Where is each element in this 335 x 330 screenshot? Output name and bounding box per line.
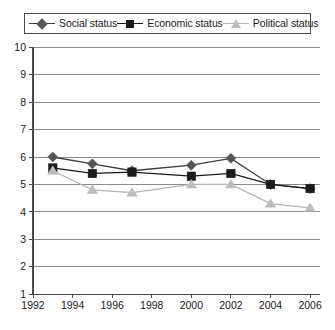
y-axis-label-5: 5 (20, 178, 26, 190)
x-axis-label-2006: 2006 (298, 299, 322, 311)
data-point-political-status-2000 (186, 180, 196, 188)
y-axis-label-7: 7 (20, 123, 26, 135)
y-axis-label-3: 3 (20, 233, 26, 245)
x-axis-label-1992: 1992 (21, 299, 45, 311)
y-axis-label-9: 9 (20, 68, 26, 80)
y-axis-label-8: 8 (20, 96, 26, 108)
data-point-political-status-2002 (226, 180, 236, 188)
data-series-group (48, 152, 316, 211)
data-point-economic-status-1995 (88, 169, 96, 177)
y-axis-label-4: 4 (20, 206, 26, 218)
x-axis-label-2002: 2002 (219, 299, 243, 311)
line-chart-plot: 12345678910 1992199419961998200020022004… (0, 0, 335, 330)
data-point-social-status-2002 (226, 153, 236, 163)
y-axis-label-2: 2 (20, 260, 26, 272)
data-point-social-status-2000 (186, 160, 196, 170)
data-point-economic-status-2006 (306, 184, 314, 192)
data-point-economic-status-2002 (227, 169, 235, 177)
y-axis-tick-labels: 12345678910 (14, 41, 26, 300)
data-point-political-status-1995 (87, 185, 97, 193)
x-axis-label-2000: 2000 (180, 299, 204, 311)
x-axis-tick-labels: 19921994199619982000200220042006 (21, 299, 322, 311)
x-axis-label-1994: 1994 (61, 299, 85, 311)
data-point-social-status-1993 (48, 152, 58, 162)
x-axis-label-1996: 1996 (100, 299, 124, 311)
y-axis-label-10: 10 (14, 41, 26, 53)
y-axis (29, 47, 33, 294)
data-point-political-status-2004 (265, 199, 275, 207)
x-axis-label-2004: 2004 (259, 299, 283, 311)
x-axis-label-1998: 1998 (140, 299, 164, 311)
data-point-economic-status-2004 (266, 180, 274, 188)
y-axis-label-1: 1 (20, 288, 26, 300)
y-axis-label-6: 6 (20, 151, 26, 163)
data-point-social-status-1995 (87, 159, 97, 169)
chart-container: Social status Economic status Political … (0, 0, 335, 330)
data-point-economic-status-1997 (128, 168, 136, 176)
